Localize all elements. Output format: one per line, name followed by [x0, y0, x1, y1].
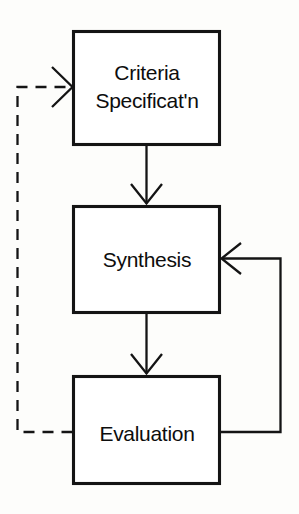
edge-evaluation-to-criteria-feedback [18, 67, 73, 432]
node-synthesis[interactable]: Synthesis [74, 207, 220, 313]
edge-evaluation-to-synthesis-feedback [221, 243, 281, 432]
node-evaluation-label: Evaluation [99, 422, 194, 445]
flowchart-diagram: Criteria Specificat'n Synthesis Evaluati… [0, 0, 299, 514]
node-synthesis-label: Synthesis [103, 248, 191, 271]
diagram-canvas: Criteria Specificat'n Synthesis Evaluati… [0, 0, 299, 514]
edge-synthesis-to-evaluation [131, 313, 162, 374]
node-criteria-specification[interactable]: Criteria Specificat'n [74, 32, 220, 145]
node-criteria-label-line2: Specificat'n [95, 89, 198, 112]
edge-criteria-to-synthesis [131, 145, 162, 204]
node-criteria-label-line1: Criteria [114, 61, 180, 84]
node-evaluation[interactable]: Evaluation [74, 377, 220, 484]
